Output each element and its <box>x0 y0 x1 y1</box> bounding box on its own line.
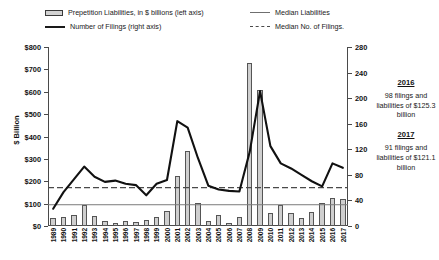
legend-item-prepetition-liabilities: Prepetition Liabilities, in $ billions (… <box>45 8 204 17</box>
x-axis-label: 2010 <box>267 228 274 242</box>
legend-label: Number of Filings (right axis) <box>70 22 161 31</box>
x-axis-label: 1998 <box>143 228 150 242</box>
left-axis-tick-label: $700 <box>25 65 41 74</box>
right-axis-tick-label: 240 <box>355 68 367 77</box>
x-axis-label: 2009 <box>257 228 264 242</box>
legend-label: Prepetition Liabilities, in $ billions (… <box>68 8 204 17</box>
x-axis-label: 2014 <box>308 228 315 242</box>
x-axis-label: 2013 <box>298 228 305 242</box>
x-axis-label: 2012 <box>288 228 295 242</box>
side-notes: 2016 98 filings and liabilities of $125.… <box>374 78 438 182</box>
note-year-2016: 2016 <box>374 78 438 87</box>
right-axis-tick <box>348 200 352 201</box>
legend-label: Median No. of Filings. <box>275 22 344 31</box>
right-axis-tick <box>348 226 352 227</box>
note-text-2017: 91 filings and liabilities of $121.1 bil… <box>374 143 438 172</box>
x-axis-label: 2011 <box>277 228 284 242</box>
right-axis-tick <box>348 98 352 99</box>
right-axis-tick <box>348 149 352 150</box>
right-axis-tick-label: 80 <box>355 170 363 179</box>
dashed-line-icon <box>250 26 270 27</box>
left-axis-tick-label: $800 <box>25 43 41 52</box>
legend-item-number-of-filings: Number of Filings (right axis) <box>45 22 161 31</box>
x-axis-labels: 1989199019911992199319941995199619971998… <box>48 228 348 260</box>
right-axis-tick-label: 120 <box>355 145 367 154</box>
right-axis-tick-label: 160 <box>355 119 367 128</box>
x-axis-label: 2017 <box>340 228 347 242</box>
left-axis-tick <box>44 226 48 227</box>
x-axis-label: 2004 <box>205 228 212 242</box>
chart-legend: Prepetition Liabilities, in $ billions (… <box>0 8 439 38</box>
line-series-overlay <box>48 47 348 226</box>
right-axis-tick <box>348 175 352 176</box>
note-year-2017: 2017 <box>374 130 438 139</box>
left-axis-tick-label: $300 <box>25 154 41 163</box>
x-axis-label: 2000 <box>164 228 171 242</box>
x-axis-label: 2005 <box>215 228 222 242</box>
x-axis-label: 2006 <box>226 228 233 242</box>
plot-area: $0$100$200$300$400$500$600$700$800 04080… <box>48 47 348 226</box>
x-axis-label: 1990 <box>60 228 67 242</box>
x-axis-label: 2007 <box>236 228 243 242</box>
right-axis-tick-label: 40 <box>355 196 363 205</box>
right-axis-tick-label: 280 <box>355 43 367 52</box>
left-axis-tick-label: $100 <box>25 199 41 208</box>
x-axis-label: 1996 <box>122 228 129 242</box>
thick-line-icon <box>45 26 65 28</box>
chart-page: Prepetition Liabilities, in $ billions (… <box>0 0 439 260</box>
x-axis-label: 1999 <box>153 228 160 242</box>
left-axis-tick-label: $0 <box>33 222 41 231</box>
number-of-filings-line <box>53 91 343 209</box>
x-axis-label: 1992 <box>81 228 88 242</box>
right-axis-tick-label: 0 <box>355 222 359 231</box>
x-axis-label: 2003 <box>195 228 202 242</box>
legend-label: Median Liabilities <box>275 8 330 17</box>
right-axis-tick <box>348 47 352 48</box>
note-text-2016: 98 filings and liabilities of $125.3 bil… <box>374 91 438 120</box>
x-axis-label: 1995 <box>112 228 119 242</box>
x-axis-label: 1989 <box>50 228 57 242</box>
y-axis-title: $ Billion <box>12 115 21 145</box>
x-axis-label: 2015 <box>319 228 326 242</box>
x-axis-label: 2016 <box>329 228 336 242</box>
right-axis-tick <box>348 73 352 74</box>
x-axis-label: 2008 <box>246 228 253 242</box>
legend-item-median-liabilities: Median Liabilities <box>250 8 330 17</box>
legend-item-median-no-of-filings: Median No. of Filings. <box>250 22 344 31</box>
right-axis-tick <box>348 124 352 125</box>
x-axis-label: 1991 <box>71 228 78 242</box>
x-axis-label: 1994 <box>102 228 109 242</box>
x-axis-label: 2001 <box>174 228 181 242</box>
x-axis-label: 1993 <box>91 228 98 242</box>
x-axis-label: 1997 <box>133 228 140 242</box>
left-axis-tick-label: $400 <box>25 132 41 141</box>
left-axis-tick-label: $200 <box>25 177 41 186</box>
x-axis-label: 2002 <box>184 228 191 242</box>
left-axis-tick-label: $500 <box>25 110 41 119</box>
bar-swatch-icon <box>45 10 63 16</box>
right-axis-tick-label: 200 <box>355 94 367 103</box>
thin-line-icon <box>250 12 270 13</box>
left-axis-tick-label: $600 <box>25 87 41 96</box>
